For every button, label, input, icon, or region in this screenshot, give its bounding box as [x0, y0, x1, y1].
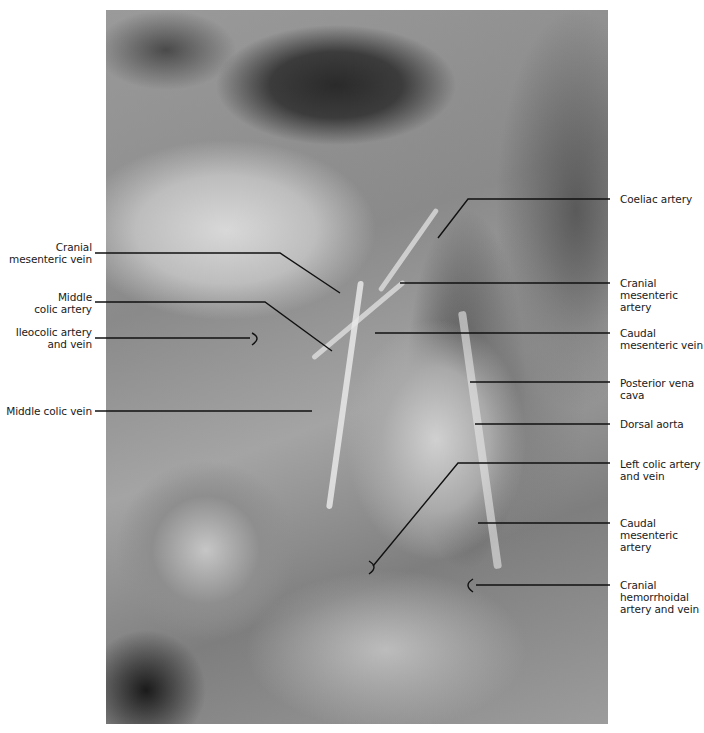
label-middle-colic-vein: Middle colic vein: [6, 405, 92, 417]
label-caudal-mesenteric-vein: Caudal mesenteric vein: [620, 327, 703, 351]
label-middle-colic-artery: Middle colic artery: [34, 291, 92, 315]
anatomy-figure: Cranial mesenteric vein Middle colic art…: [0, 0, 704, 733]
label-cranial-hemorrhoidal-artery-and-vein: Cranial hemorrhoidal artery and vein: [620, 579, 699, 615]
label-left-colic-artery-and-vein: Left colic artery and vein: [620, 458, 700, 482]
label-caudal-mesenteric-artery: Caudal mesenteric artery: [620, 517, 678, 553]
label-dorsal-aorta: Dorsal aorta: [620, 418, 684, 430]
label-posterior-vena-cava: Posterior vena cava: [620, 377, 694, 401]
label-coeliac-artery: Coeliac artery: [620, 193, 692, 205]
dissection-photo: [106, 10, 608, 724]
label-cranial-mesenteric-artery: Cranial mesenteric artery: [620, 277, 678, 313]
label-cranial-mesenteric-vein: Cranial mesenteric vein: [9, 241, 92, 265]
label-ileocolic-artery-and-vein: Ileocolic artery and vein: [16, 326, 92, 350]
